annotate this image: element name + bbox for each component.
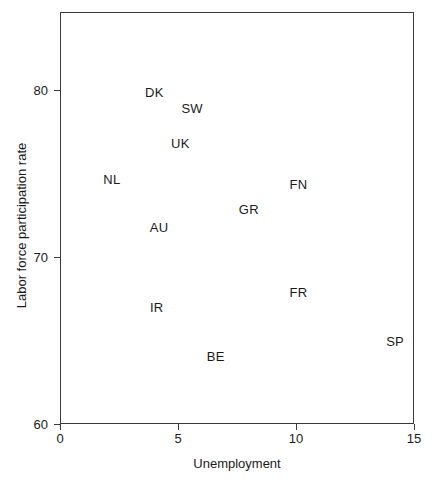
data-point-label: NL: [103, 172, 120, 185]
data-point-label: BE: [207, 349, 225, 362]
data-point-label: FN: [289, 177, 307, 190]
chart-title: [0, 0, 432, 5]
data-point-label: SP: [386, 334, 404, 347]
data-point-label: IR: [150, 301, 164, 314]
x-tick-mark: [414, 424, 415, 430]
data-point-label: SW: [181, 102, 203, 115]
x-tick-label: 15: [394, 432, 432, 445]
x-tick-label: 5: [158, 432, 198, 445]
x-tick-mark: [296, 424, 297, 430]
x-tick-mark: [60, 424, 61, 430]
x-tick-mark: [178, 424, 179, 430]
x-tick-label: 0: [40, 432, 80, 445]
y-tick-label: 60: [10, 418, 48, 431]
data-point-label: GR: [239, 202, 259, 215]
x-tick-label: 10: [276, 432, 316, 445]
data-point-label: AU: [150, 220, 169, 233]
scatter-chart-figure: Unemployment Labor force participation r…: [0, 0, 432, 489]
y-tick-mark: [54, 257, 60, 258]
data-point-label: DK: [145, 85, 164, 98]
y-tick-label: 70: [10, 251, 48, 264]
data-point-label: FR: [289, 286, 307, 299]
data-point-label: UK: [171, 137, 190, 150]
y-axis-label: Labor force participation rate: [14, 66, 29, 386]
plot-area: [60, 12, 414, 424]
x-axis-label: Unemployment: [60, 456, 414, 471]
y-tick-label: 80: [10, 84, 48, 97]
y-tick-mark: [54, 90, 60, 91]
